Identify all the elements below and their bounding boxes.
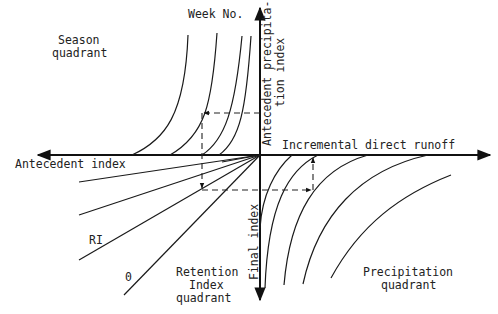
final-index-label: Final index [247,204,261,280]
precip-quadrant-label-2: quadrant [381,278,436,292]
season-curve-4 [219,36,251,155]
coaxial-runoff-diagram: Week No. Season quadrant Antecedent prec… [0,0,498,314]
antecedent-precip-label-1: Antecedent precipita- [260,1,274,146]
antecedent-index-label: Antecedent index [15,157,126,171]
precip-curve-3 [284,155,368,285]
season-curve-2 [170,33,217,155]
retention-quadrant-label-2: Index [189,278,224,292]
precip-curve-5 [331,175,451,278]
season-quadrant-label-2: quadrant [52,46,107,60]
incremental-runoff-label: Incremental direct runoff [282,138,455,152]
season-curve-1 [132,35,188,155]
zero-label: 0 [125,270,132,284]
precip-quadrant-label-1: Precipitation [363,265,453,279]
antecedent-precip-label-2: tion index [273,38,287,107]
season-quadrant-label-1: Season [58,33,100,47]
season-curves [132,33,251,155]
week-no-label: Week No. [188,7,243,21]
season-curve-3 [202,36,242,155]
retention-quadrant-label-1: Retention [176,265,238,279]
precip-curve-1 [260,155,292,228]
retention-quadrant-label-3: quadrant [176,291,231,305]
ri-label: RI [89,233,103,247]
precip-curve-2 [265,155,318,288]
